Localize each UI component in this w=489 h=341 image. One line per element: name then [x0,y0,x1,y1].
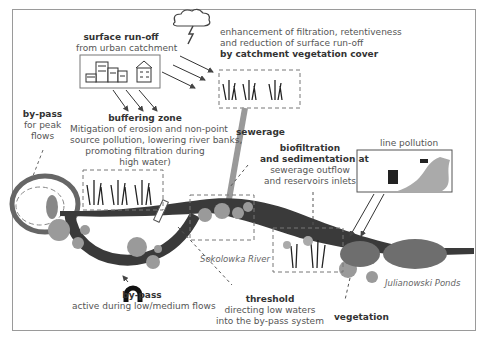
threshold-line1: directing low waters [215,305,325,316]
bypass-peak-line1: for peak [20,120,65,131]
biofiltration-line1: sewerage outflow [260,165,360,176]
bypass-peak-title: by-pass [20,109,65,120]
storm-cloud-icon [173,9,209,44]
catchment-line1: enhancement of filtration, retentiveness [220,27,402,38]
threshold-label: threshold directing low waters into the … [215,294,325,327]
catchment-line2: and reduction of surface run-off [220,38,402,49]
pond-1 [340,241,380,267]
catchment-line3: by catchment vegetation cover [220,49,402,60]
pond-2 [383,239,447,269]
car-icon [420,159,428,163]
buffering-zone-label: buffering zone Mitigation of erosion and… [70,113,220,168]
vegetation-label: vegetation [334,312,389,323]
line-pollution-label: line pollution [380,138,438,149]
sewerage-pipe [228,108,245,205]
biofiltration-label: biofiltration and sedimentation at sewer… [260,143,360,187]
reed-vegetation-icon [223,80,282,100]
buffering-zone-line4: high water) [70,157,220,168]
sewerage-label: sewerage [236,127,285,138]
surface-runoff-subtitle: from urban catchment [76,43,166,54]
bypass-low-title: by-pass [72,290,212,301]
biofiltration-line2: and reservoirs inlets [260,176,360,187]
buffering-zone-line3: promoting filtration during [70,146,220,157]
catchment-vegetation-zone [219,70,300,108]
threshold-line2: into the by-pass system [215,316,325,327]
biofiltration-title2: and sedimentation at [260,154,360,165]
surface-runoff-title: surface run-off [76,32,166,43]
buffering-zone-line2: source pollution, lowering river banks, [70,135,220,146]
threshold-title: threshold [215,294,325,305]
truck-icon [388,170,398,184]
river-name-label: Sokolowka River [200,254,270,265]
bypass-peak-label: by-pass for peak flows [20,109,65,142]
catchment-vegetation-label: enhancement of filtration, retentiveness… [220,27,402,60]
buffering-zone-title: buffering zone [70,113,220,124]
bypass-peak-line2: flows [20,131,65,142]
surface-runoff-label: surface run-off from urban catchment [76,32,166,54]
biofiltration-title1: biofiltration [260,143,360,154]
bypass-low-label: by-pass active during low/medium flows [72,290,212,312]
buffering-zone-line1: Mitigation of erosion and non-point [70,124,220,135]
bypass-low-subtitle: active during low/medium flows [72,301,212,312]
ponds-name-label: Julianowski Ponds [385,278,460,289]
